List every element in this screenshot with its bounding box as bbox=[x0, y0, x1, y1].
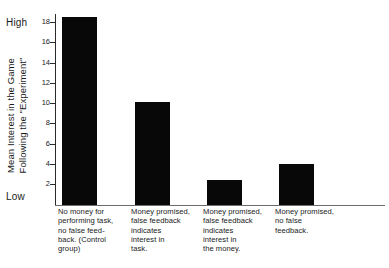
x-axis-category-labels: No money forperforming task,no false fee… bbox=[55, 207, 389, 267]
y-axis-tick-labels: 24681012141618 bbox=[32, 0, 50, 268]
category-label-2-line-5: task. bbox=[131, 244, 190, 253]
y-tick-label-6: 6 bbox=[34, 140, 50, 148]
category-label-2: Money promised,false feedbackindicatesin… bbox=[131, 207, 190, 253]
bar-2 bbox=[135, 102, 170, 205]
category-label-1-line-4: back. (Control bbox=[58, 235, 113, 244]
category-label-2-line-1: Money promised, bbox=[131, 207, 190, 216]
y-tick-label-16: 16 bbox=[34, 38, 50, 46]
y-tick-label-12: 12 bbox=[34, 79, 50, 87]
category-label-4: Money promised,no falsefeedback. bbox=[275, 207, 334, 235]
bar-4 bbox=[279, 164, 314, 205]
category-label-2-line-4: interest in bbox=[131, 235, 190, 244]
y-axis-low-label: Low bbox=[6, 191, 25, 202]
category-label-3-line-5: the money. bbox=[203, 244, 262, 253]
y-tick-label-4: 4 bbox=[34, 160, 50, 168]
category-label-4-line-1: Money promised, bbox=[275, 207, 334, 216]
category-label-3-line-1: Money promised, bbox=[203, 207, 262, 216]
bar-chart-figure: Mean Interest in the Game Following the … bbox=[0, 0, 389, 268]
category-label-1-line-2: performing task, bbox=[58, 216, 113, 225]
y-tick-label-8: 8 bbox=[34, 119, 50, 127]
plot-area bbox=[55, 0, 389, 205]
y-axis-title-line-2: Following the "Experiment" bbox=[16, 36, 28, 196]
category-label-2-line-3: indicates bbox=[131, 226, 190, 235]
category-label-1-line-1: No money for bbox=[58, 207, 113, 216]
category-label-3: Money promised,false feedbackindicatesin… bbox=[203, 207, 262, 253]
y-axis-title: Mean Interest in the Game Following the … bbox=[5, 36, 28, 196]
category-label-4-line-2: no false bbox=[275, 216, 334, 225]
y-tick-label-18: 18 bbox=[34, 18, 50, 26]
category-label-1-line-5: group) bbox=[58, 244, 113, 253]
category-label-2-line-2: false feedback bbox=[131, 216, 190, 225]
category-label-3-line-2: false feedback bbox=[203, 216, 262, 225]
y-tick-label-10: 10 bbox=[34, 99, 50, 107]
bar-3 bbox=[207, 180, 242, 205]
y-axis-high-label: High bbox=[6, 17, 27, 28]
category-label-4-line-3: feedback. bbox=[275, 226, 334, 235]
bar-1 bbox=[62, 17, 97, 205]
y-axis-title-line-1: Mean Interest in the Game bbox=[5, 36, 17, 196]
category-label-1-line-3: no false feed- bbox=[58, 226, 113, 235]
y-tick-label-2: 2 bbox=[34, 180, 50, 188]
category-label-3-line-4: interest in bbox=[203, 235, 262, 244]
y-tick-label-14: 14 bbox=[34, 59, 50, 67]
category-label-3-line-3: indicates bbox=[203, 226, 262, 235]
category-label-1: No money forperforming task,no false fee… bbox=[58, 207, 113, 253]
